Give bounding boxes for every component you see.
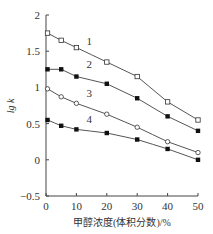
- series-group: 1234: [45, 31, 200, 162]
- data-point: [59, 124, 63, 128]
- x-tick-label: 30: [132, 200, 144, 212]
- data-point: [59, 95, 63, 99]
- data-point: [196, 118, 200, 122]
- x-tick-label: 20: [101, 200, 113, 212]
- series-line-3: [48, 89, 198, 153]
- data-point: [165, 147, 169, 151]
- data-point: [45, 67, 49, 71]
- data-point: [45, 87, 49, 91]
- data-point: [196, 150, 200, 154]
- data-point: [45, 31, 49, 35]
- series-label: 1: [86, 35, 92, 47]
- data-point: [74, 45, 78, 49]
- data-point: [196, 158, 200, 162]
- data-point: [74, 101, 78, 105]
- data-point: [59, 67, 63, 71]
- data-point: [105, 131, 109, 135]
- data-point: [45, 118, 49, 122]
- data-point: [135, 125, 139, 129]
- data-point: [135, 137, 139, 141]
- x-tick-label: 0: [43, 200, 49, 212]
- data-point: [165, 140, 169, 144]
- data-point: [135, 96, 139, 100]
- data-point: [105, 112, 109, 116]
- data-point: [74, 74, 78, 78]
- series-label: 3: [86, 87, 92, 99]
- series-label: 2: [86, 58, 92, 70]
- series-line-4: [48, 120, 198, 160]
- x-axis-label: 甲醇浓度(体积分数)/%: [73, 216, 171, 229]
- axes: −0.500.511.5201020304050: [20, 9, 204, 212]
- data-point: [165, 114, 169, 118]
- y-tick-label: 1: [35, 81, 41, 93]
- x-tick-label: 50: [193, 200, 205, 212]
- y-tick-label: 1.5: [26, 45, 40, 57]
- data-point: [196, 129, 200, 133]
- series-line-1: [48, 33, 198, 120]
- series-label: 4: [86, 113, 92, 125]
- y-tick-label: 0.5: [26, 118, 40, 130]
- data-point: [105, 60, 109, 64]
- y-tick-label: 0: [35, 154, 41, 166]
- data-point: [59, 38, 63, 42]
- data-point: [135, 74, 139, 78]
- x-tick-label: 10: [71, 200, 83, 212]
- x-tick-label: 40: [162, 200, 174, 212]
- chart: −0.500.511.5201020304050 1234 甲醇浓度(体积分数)…: [0, 0, 213, 234]
- y-tick-label: −0.5: [20, 190, 40, 202]
- y-tick-label: 2: [35, 9, 41, 21]
- data-point: [74, 127, 78, 131]
- y-axis-label: lg k: [5, 98, 16, 113]
- series-line-2: [48, 69, 198, 131]
- data-point: [165, 100, 169, 104]
- data-point: [105, 82, 109, 86]
